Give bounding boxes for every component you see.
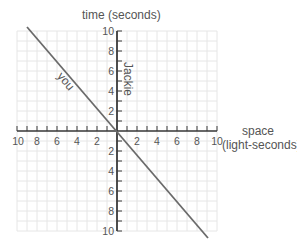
x-tick-label: 8	[34, 136, 40, 147]
x-tick-label: 8	[194, 136, 200, 147]
y-tick-label: 10	[98, 26, 114, 37]
x-tick-label: 4	[74, 136, 80, 147]
x-tick-label: 2	[134, 136, 140, 147]
y-tick-label: 10	[98, 226, 114, 237]
y-tick-label: 8	[98, 46, 114, 57]
y-tick-label: 4	[98, 166, 114, 177]
y-tick-label: 6	[98, 186, 114, 197]
y-tick-label: 4	[98, 86, 114, 97]
x-tick-label: 6	[54, 136, 60, 147]
y-tick-label: 2	[98, 106, 114, 117]
x-axis-label-space: space	[242, 125, 274, 137]
x-tick-label: 10	[12, 136, 24, 147]
spacetime-diagram: time (seconds) space (light-seconds) Jac…	[0, 0, 297, 248]
y-tick-label: 2	[98, 146, 114, 157]
x-axis-label-units: (light-seconds)	[222, 139, 297, 151]
x-tick-label: 6	[174, 136, 180, 147]
jackie-label: Jackie	[122, 62, 134, 96]
x-tick-label: 10	[211, 136, 223, 147]
y-tick-label: 8	[98, 206, 114, 217]
x-tick-label: 4	[154, 136, 160, 147]
y-tick-label: 6	[98, 66, 114, 77]
y-axis-label: time (seconds)	[82, 9, 161, 21]
